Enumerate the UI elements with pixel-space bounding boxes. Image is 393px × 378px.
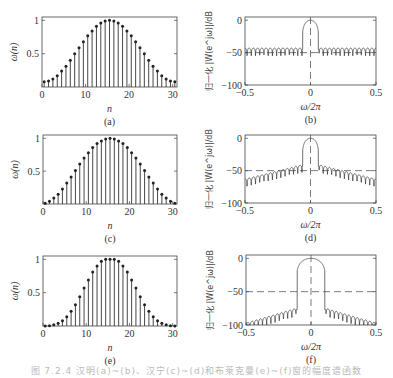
spectrum-plot-b: −0.500.50−50−100ω/2π归一化 |W(e^jω)|/dB(b) xyxy=(204,11,382,126)
x-axis-label: ω/2π xyxy=(301,101,322,112)
y-tick-label: −100 xyxy=(222,320,243,331)
y-tick-label: −50 xyxy=(227,286,243,297)
x-tick-label: 0 xyxy=(309,327,314,338)
y-tick-label: −50 xyxy=(226,165,242,176)
spectrum-plot-d: −0.500.50−50−100ω/2π归一化 |W(e^jω)|/dB(d) xyxy=(204,129,382,244)
y-tick-label: 0 xyxy=(237,133,242,144)
subplot-label: (b) xyxy=(305,114,317,126)
x-tick-label: 0.5 xyxy=(370,87,383,98)
stem-plot-c: 01020300.51nω(n)(c) xyxy=(9,133,178,245)
x-tick-label: 0 xyxy=(308,87,313,98)
x-tick-label: 30 xyxy=(168,328,178,339)
y-axis-label: ω(n) xyxy=(8,42,20,61)
x-tick-label: 0 xyxy=(41,206,46,217)
x-axis-label: ω/2π xyxy=(301,219,322,230)
y-tick-label: 0.5 xyxy=(27,48,40,59)
x-tick-label: 10 xyxy=(81,89,91,100)
spectrum-plot-f: −0.500.50−50−100ω/2π归一化 |W(e^jω)|/dB(f) xyxy=(205,250,382,366)
y-tick-label: 1 xyxy=(35,133,40,144)
stem-plot-a: 01020300.51nω(n)(a) xyxy=(8,15,178,128)
x-tick-label: 0 xyxy=(40,89,45,100)
subplot-label: (c) xyxy=(104,233,115,245)
y-tick-label: −100 xyxy=(221,80,242,91)
x-axis-label: n xyxy=(108,220,113,231)
x-tick-label: 10 xyxy=(81,206,91,217)
figure-caption: 图 7.2.4 汉明(a)~(b)、汉宁(c)~(d)和布莱克曼(e)~(f)窗… xyxy=(0,364,393,377)
y-tick-label: 0 xyxy=(237,15,242,26)
figure-canvas: 01020300.51nω(n)(a)−0.500.50−50−100ω/2π归… xyxy=(0,0,393,378)
y-tick-label: −100 xyxy=(221,198,242,209)
x-tick-label: 20 xyxy=(124,328,134,339)
y-tick-label: 1 xyxy=(34,15,39,26)
y-axis-label: 归一化 |W(e^jω)|/dB xyxy=(204,11,214,91)
y-tick-label: 0.5 xyxy=(28,166,41,177)
x-tick-label: 0.5 xyxy=(370,327,383,338)
x-tick-label: 20 xyxy=(124,206,134,217)
y-axis-label: ω(n) xyxy=(9,159,21,178)
y-axis-label: 归一化 |W(e^jω)|/dB xyxy=(204,129,214,209)
x-axis-label: ω/2π xyxy=(301,341,322,352)
subplot-label: (a) xyxy=(104,116,115,128)
x-tick-label: 30 xyxy=(168,89,178,100)
y-axis-label: ω(n) xyxy=(9,281,21,300)
y-axis-label: 归一化 |W(e^jω)|/dB xyxy=(205,250,215,330)
x-axis-label: n xyxy=(107,103,112,114)
y-tick-label: 1 xyxy=(35,254,40,265)
x-tick-label: 10 xyxy=(81,328,91,339)
x-tick-label: 0.5 xyxy=(370,205,383,216)
x-tick-label: 0 xyxy=(308,205,313,216)
subplot-label: (d) xyxy=(305,232,317,244)
stem-plot-e: 01020300.51nω(n)(e) xyxy=(9,254,178,367)
x-tick-label: 20 xyxy=(124,89,134,100)
y-tick-label: −50 xyxy=(226,47,242,58)
x-axis-label: n xyxy=(108,342,113,353)
x-tick-label: 30 xyxy=(168,206,178,217)
y-tick-label: 0.5 xyxy=(28,287,41,298)
x-tick-label: 0 xyxy=(41,328,46,339)
y-tick-label: 0 xyxy=(238,253,243,264)
